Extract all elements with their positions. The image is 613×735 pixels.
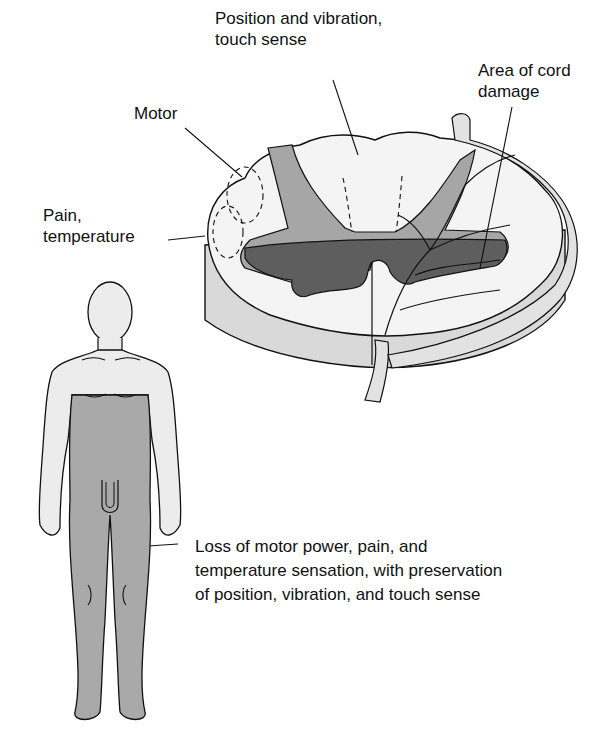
label-pain-temperature: Pain, temperature [43,205,135,247]
label-body-loss: Loss of motor power, pain, and temperatu… [195,535,502,607]
lower-body-affected [69,395,150,720]
label-motor: Motor [134,103,177,124]
body-figure [0,0,613,735]
label-cord-damage: Area of cord damage [478,60,571,102]
head [88,282,132,342]
label-position-vibration: Position and vibration, touch sense [215,8,382,50]
